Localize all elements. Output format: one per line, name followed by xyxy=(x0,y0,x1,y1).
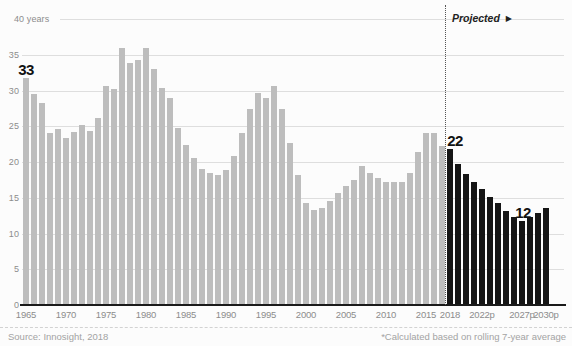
source-note: Source: Innosight, 2018 xyxy=(8,331,108,342)
annotation-12-2027: 12 xyxy=(515,204,531,221)
annotation-33-1965: 33 xyxy=(18,61,34,78)
annotations-layer: 332212 xyxy=(0,0,572,346)
calculation-note: *Calculated based on rolling 7-year aver… xyxy=(381,331,566,342)
right-arrow-icon: ▶ xyxy=(506,14,512,23)
projected-label-text: Projected xyxy=(452,12,500,24)
projected-label: Projected ▶ xyxy=(452,12,512,24)
footer-divider xyxy=(0,327,572,328)
lifespan-bar-chart: 0510152025303540 years 19651970197519801… xyxy=(0,0,572,346)
annotation-22-2018: 22 xyxy=(447,132,463,149)
